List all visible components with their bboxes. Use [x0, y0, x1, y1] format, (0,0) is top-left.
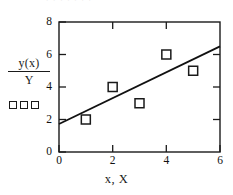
- legend-square-icon: [9, 101, 17, 109]
- x-axis-title: x, X: [0, 172, 233, 187]
- data-point: [135, 99, 144, 108]
- plot-frame: [59, 22, 220, 152]
- y-tick-label-8: 8: [36, 16, 52, 28]
- chart-figure: · · · · · · ·: [0, 0, 233, 195]
- x-tick-label-6: 6: [212, 155, 228, 167]
- data-point: [189, 66, 198, 75]
- data-point: [81, 115, 90, 124]
- y-axis-title-numerator: y(x): [6, 57, 52, 70]
- data-point: [108, 83, 117, 92]
- fraction-bar: [8, 71, 50, 72]
- y-axis-title: y(x) Y: [6, 57, 52, 87]
- x-tick-label-4: 4: [158, 155, 174, 167]
- x-tick-label-0: 0: [51, 155, 67, 167]
- y-tick-label-2: 2: [36, 114, 52, 126]
- y-axis-title-denominator: Y: [6, 73, 52, 87]
- x-tick-label-2: 2: [105, 155, 121, 167]
- y-tick-label-0: 0: [36, 146, 52, 158]
- legend-square-icon: [31, 101, 39, 109]
- legend-marker-group: [9, 101, 39, 109]
- data-point: [162, 50, 171, 59]
- legend-square-icon: [20, 101, 28, 109]
